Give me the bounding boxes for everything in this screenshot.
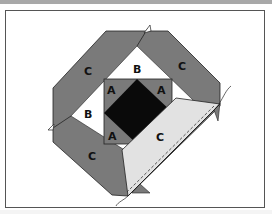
quilt-block-diagram: C C B A A B A C C — [0, 0, 272, 214]
thread-top — [219, 86, 231, 104]
label-b-left: B — [84, 108, 92, 121]
label-b-top: B — [133, 63, 141, 76]
label-a-top-left: A — [107, 84, 116, 97]
thread-bottom — [116, 196, 128, 206]
label-a-top-right: A — [157, 84, 166, 97]
label-a-bottom-left: A — [108, 130, 117, 143]
pin-left-icon — [48, 124, 54, 130]
label-c-bottom-left: C — [88, 150, 96, 163]
label-c-folded: C — [156, 131, 164, 144]
label-c-top-right: C — [178, 60, 186, 73]
label-c-top-left: C — [84, 65, 92, 78]
